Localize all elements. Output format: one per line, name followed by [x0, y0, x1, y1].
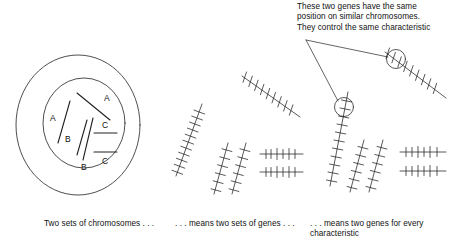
- gene-position-callout: These two genes have the same position o…: [297, 2, 459, 33]
- gene-chromosome-1: [172, 104, 205, 176]
- callout-leader-lines: [306, 40, 388, 101]
- chromosome-b2: [83, 118, 93, 160]
- homolog-chromosome-1: [327, 92, 352, 186]
- panel-genes-chromosomes: [172, 72, 303, 194]
- label-chromosome-b-left: B: [65, 134, 71, 144]
- label-chromosome-a-right: A: [104, 93, 110, 103]
- homolog-chromosome-2: [347, 140, 368, 192]
- callout-line-1: These two genes have the same: [297, 2, 459, 12]
- homolog-chromosome-4: [385, 48, 446, 98]
- leader-line-to-locus-1: [306, 40, 338, 101]
- callout-line-3: They control the same characteristic: [297, 23, 459, 33]
- gene-chromosome-pair-horizontal: [260, 149, 303, 178]
- gene-chromosome-2: [211, 143, 232, 194]
- homolog-chromosome-3: [366, 140, 387, 192]
- cell-membrane-circle: [16, 55, 140, 195]
- caption-two-genes-every-characteristic: . . . means two genes for every characte…: [310, 219, 458, 239]
- panel-gene-pairs-chromosomes: [327, 48, 447, 192]
- label-chromosome-a-left: A: [50, 113, 56, 123]
- cell-diagram: [16, 55, 140, 195]
- caption-two-sets-chromosomes: Two sets of chromosomes . . .: [44, 219, 154, 229]
- callout-line-2: position on similar chromosomes.: [297, 12, 459, 22]
- gene-chromosome-3: [229, 143, 250, 194]
- label-chromosome-c-top: C: [102, 120, 108, 130]
- gene-chromosome-4: [242, 72, 300, 117]
- label-chromosome-b-bottom: B: [81, 162, 87, 172]
- circled-gene-locus-2: [387, 50, 406, 69]
- caption-two-sets-genes: . . . means two sets of genes . . .: [175, 219, 295, 229]
- label-chromosome-c-bottom: C: [102, 156, 108, 166]
- leader-line-to-locus-2: [306, 40, 388, 57]
- nucleus-chromosomes: [58, 93, 117, 160]
- homolog-pair-horizontal: [400, 147, 446, 177]
- genetics-figure: A A B B C C: [0, 0, 459, 241]
